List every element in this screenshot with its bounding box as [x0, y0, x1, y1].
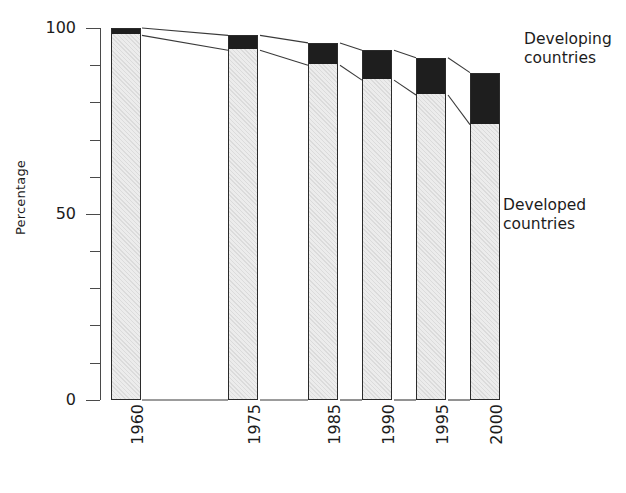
y-tick-80 — [90, 102, 100, 103]
x-tick-label-1985: 1985 — [327, 404, 343, 490]
bar-segment-developing-1990 — [363, 51, 391, 81]
y-tick-label-100: 100 — [30, 20, 76, 36]
bar-segment-developed-1985 — [309, 64, 337, 399]
y-tick-label-50: 50 — [30, 206, 76, 222]
bar-segment-developing-2000 — [471, 74, 499, 126]
bar-2000[interactable] — [470, 73, 500, 400]
bar-1990[interactable] — [362, 50, 392, 400]
y-tick-label-0: 0 — [30, 392, 76, 408]
bar-1960[interactable] — [111, 28, 141, 400]
y-tick-60 — [90, 177, 100, 178]
bar-segment-developing-1995 — [417, 59, 445, 96]
bar-1995[interactable] — [416, 58, 446, 400]
y-tick-20 — [90, 325, 100, 326]
plot-area — [100, 0, 520, 493]
bar-1985[interactable] — [308, 43, 338, 400]
legend-developing-line1: Developing — [524, 30, 612, 49]
y-tick-40 — [90, 251, 100, 252]
x-tick-label-1990: 1990 — [381, 404, 397, 490]
bar-1975[interactable] — [228, 35, 258, 400]
chart-figure: Percentage 100 50 0 — [0, 0, 626, 493]
bar-segment-developed-1960 — [112, 34, 140, 399]
legend-developing-line2: countries — [524, 49, 612, 68]
y-tick-10 — [90, 363, 100, 364]
y-tick-50 — [86, 214, 100, 215]
legend-developed-line2: countries — [503, 215, 586, 234]
x-tick-label-1995: 1995 — [435, 404, 451, 490]
bar-segment-developed-2000 — [471, 124, 499, 399]
x-tick-label-1975: 1975 — [247, 404, 263, 490]
legend-developing: Developing countries — [524, 30, 612, 68]
y-tick-30 — [90, 288, 100, 289]
y-tick-90 — [90, 65, 100, 66]
bar-segment-developed-1995 — [417, 94, 445, 399]
y-tick-0 — [86, 400, 100, 401]
bar-segment-developed-1975 — [229, 49, 257, 399]
x-tick-label-2000: 2000 — [489, 404, 505, 490]
x-tick-label-1960: 1960 — [130, 404, 146, 490]
legend-developed-line1: Developed — [503, 196, 586, 215]
bar-segment-developed-1990 — [363, 79, 391, 399]
y-tick-70 — [90, 140, 100, 141]
bar-segment-developing-1985 — [309, 44, 337, 66]
y-tick-100 — [86, 28, 100, 29]
y-axis-title: Percentage — [13, 138, 28, 258]
legend-developed: Developed countries — [503, 196, 586, 234]
